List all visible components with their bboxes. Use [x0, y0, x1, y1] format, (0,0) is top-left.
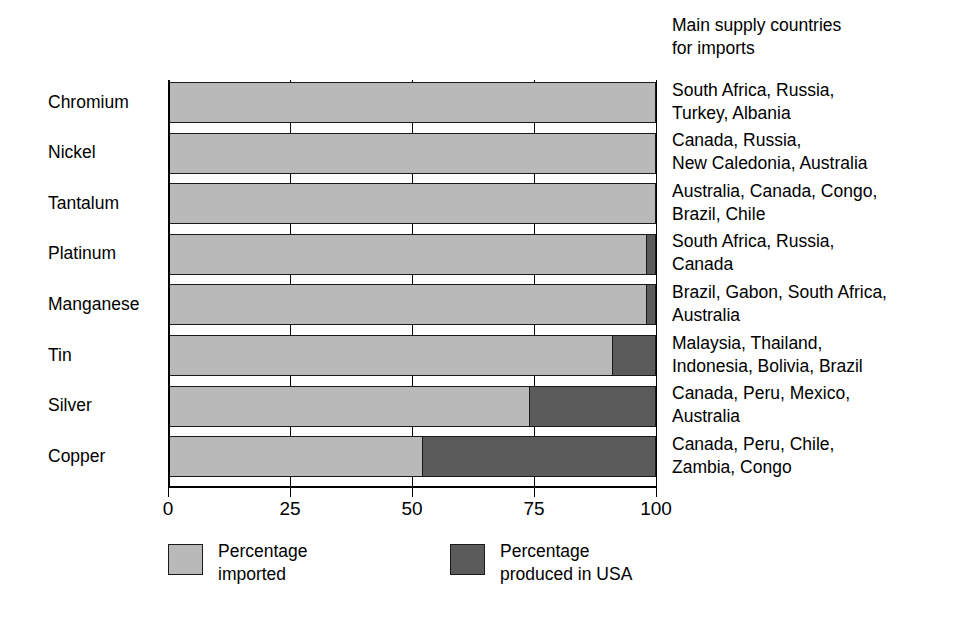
stacked-bar-chart: Main supply countries for imports Chromi…	[0, 0, 953, 622]
plot-area	[168, 80, 656, 486]
x-tick-label-25: 25	[260, 498, 320, 520]
bar-segment-domestic[interactable]	[646, 234, 656, 275]
bar-row[interactable]	[168, 82, 656, 123]
annotation-copper: Canada, Peru, Chile, Zambia, Congo	[672, 433, 953, 479]
bar-segment-imported[interactable]	[168, 234, 646, 275]
chart-legend: Percentage importedPercentage produced i…	[0, 540, 953, 610]
x-tick-100	[656, 488, 657, 497]
bar-row[interactable]	[168, 133, 656, 174]
x-tick-25	[290, 488, 291, 497]
bar-segment-imported[interactable]	[168, 335, 612, 376]
x-tick-75	[534, 488, 535, 497]
bar-segment-imported[interactable]	[168, 133, 656, 174]
legend-swatch	[450, 544, 485, 575]
annotation-tantalum: Australia, Canada, Congo, Brazil, Chile	[672, 180, 953, 226]
bar-row[interactable]	[168, 284, 656, 325]
y-axis-line	[168, 80, 170, 486]
x-tick-label-100: 100	[626, 498, 686, 520]
bar-row[interactable]	[168, 183, 656, 224]
legend-label: Percentage imported	[218, 540, 448, 586]
bar-segment-imported[interactable]	[168, 436, 422, 477]
bar-segment-domestic[interactable]	[646, 284, 656, 325]
legend-label: Percentage produced in USA	[500, 540, 730, 586]
bar-segment-imported[interactable]	[168, 183, 656, 224]
annotation-silver: Canada, Peru, Mexico, Australia	[672, 382, 953, 428]
bar-row[interactable]	[168, 386, 656, 427]
x-tick-50	[412, 488, 413, 497]
bar-row[interactable]	[168, 234, 656, 275]
bar-row[interactable]	[168, 335, 656, 376]
x-tick-label-0: 0	[138, 498, 198, 520]
gridline-100	[656, 80, 657, 486]
x-tick-0	[168, 488, 169, 497]
legend-swatch	[168, 544, 203, 575]
x-tick-label-50: 50	[382, 498, 442, 520]
annotation-platinum: South Africa, Russia, Canada	[672, 230, 953, 276]
bar-segment-domestic[interactable]	[529, 386, 656, 427]
bar-segment-imported[interactable]	[168, 386, 529, 427]
bar-row[interactable]	[168, 436, 656, 477]
annotation-manganese: Brazil, Gabon, South Africa, Australia	[672, 281, 953, 327]
bar-segment-domestic[interactable]	[422, 436, 656, 477]
annotation-nickel: Canada, Russia, New Caledonia, Australia	[672, 129, 953, 175]
x-tick-label-75: 75	[504, 498, 564, 520]
annotation-column-header: Main supply countries for imports	[672, 14, 947, 60]
annotation-chromium: South Africa, Russia, Turkey, Albania	[672, 79, 953, 125]
bar-segment-imported[interactable]	[168, 284, 646, 325]
bar-segment-imported[interactable]	[168, 82, 656, 123]
annotation-tin: Malaysia, Thailand, Indonesia, Bolivia, …	[672, 332, 953, 378]
bar-segment-domestic[interactable]	[612, 335, 656, 376]
